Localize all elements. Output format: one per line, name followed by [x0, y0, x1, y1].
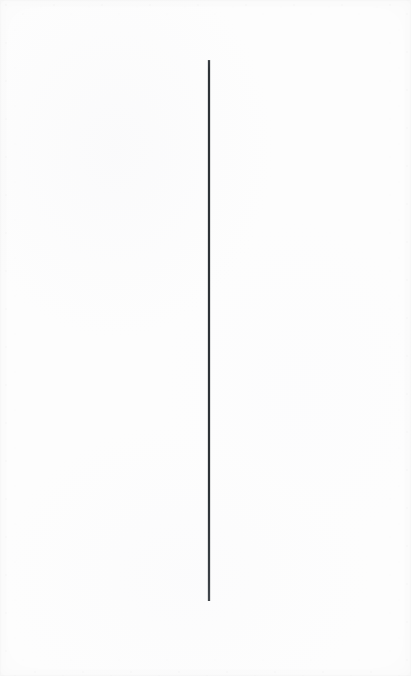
vertical-rule-mark	[208, 60, 210, 601]
scanned-page	[0, 0, 411, 676]
ink-marks-layer	[0, 0, 411, 676]
